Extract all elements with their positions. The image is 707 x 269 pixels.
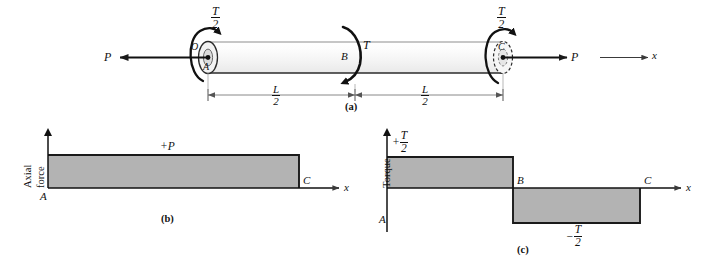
point-label-B-shaft: B (341, 50, 348, 62)
dim-arrow-1 (208, 92, 215, 98)
torque-mid-label: T (363, 38, 370, 53)
point-label-O: O (191, 41, 198, 52)
point-label-A-shaft: A (203, 61, 209, 72)
panel-caption-b: (b) (161, 213, 174, 224)
x-axis-label-a: x (652, 49, 657, 61)
panel-c-top-value-label: + T 2 (392, 130, 408, 154)
panel-c-xlabel: x (686, 181, 691, 193)
panel-b-ylabel-line1: Axial (22, 165, 33, 188)
panel-b-chart (48, 133, 339, 188)
point-label-C-shaft: C (498, 41, 505, 52)
panel-b-value-label: +P (160, 140, 175, 152)
torque-bar-positive (387, 157, 513, 188)
torque-bar-negative (513, 188, 640, 223)
dim-arrow-2 (348, 92, 355, 98)
panel-c-ylabel: Torque (381, 158, 392, 188)
dimension-label-left: L 2 (272, 84, 280, 107)
force-label-right: P (571, 50, 578, 65)
panel-b-point-C: C (303, 174, 310, 186)
dim-arrow-3 (355, 92, 362, 98)
panel-c-point-A: A (379, 213, 386, 225)
force-label-left: P (104, 50, 111, 65)
figure-root: T 2 T 2 T B O A C P P x L 2 L 2 (a) Axia… (0, 0, 707, 269)
panel-c-bottom-value-label: − T 2 (566, 224, 582, 248)
panel-caption-c: (c) (517, 244, 529, 255)
panel-c-point-B: B (517, 174, 524, 186)
panel-a-shaft (120, 27, 648, 101)
dimension-label-right: L 2 (421, 84, 429, 107)
dim-arrow-4 (496, 92, 503, 98)
panel-b-ylabel-line2: force (35, 166, 46, 188)
panel-c-chart (387, 133, 681, 232)
panel-caption-a: (a) (345, 101, 357, 112)
torque-right-label: T 2 (497, 5, 506, 30)
panel-b-xlabel: x (344, 181, 349, 193)
torque-left-label: T 2 (211, 5, 220, 30)
panel-b-point-A: A (40, 190, 47, 202)
shaft-body (208, 42, 503, 73)
panel-c-point-C: C (644, 174, 651, 186)
figure-vector-layer (0, 0, 707, 269)
axial-force-bar (48, 155, 299, 188)
